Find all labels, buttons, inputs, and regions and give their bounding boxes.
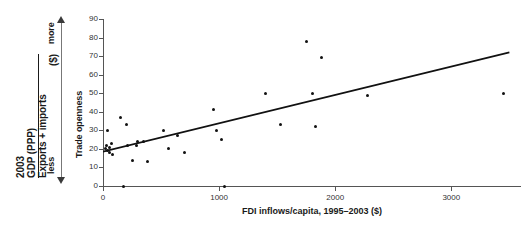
data-point <box>183 151 186 154</box>
plot-area <box>103 19 521 186</box>
x-tick-label: 3000 <box>436 194 466 202</box>
data-point <box>502 92 505 95</box>
data-point <box>126 144 129 147</box>
x-tick <box>335 187 336 191</box>
data-point <box>135 144 138 147</box>
direction-label-more: more <box>46 22 56 44</box>
trend-line <box>103 19 521 186</box>
chart-figure: Exports + imports GDP (PPP) 2003 ($) mor… <box>0 0 532 231</box>
data-point <box>131 159 134 162</box>
x-axis-ticks-and-labels: 0100020003000 <box>103 187 521 207</box>
fraction-denominator: GDP (PPP) <box>27 128 37 178</box>
data-point <box>162 129 165 132</box>
data-point <box>366 94 369 97</box>
y-tick-label: 40 <box>80 108 98 116</box>
x-tick <box>219 187 220 191</box>
y-axis-tick-labels: 0102030405060708090 <box>80 19 98 187</box>
x-tick-label: 0 <box>88 194 118 202</box>
x-tick-label: 1000 <box>204 194 234 202</box>
data-point <box>305 40 308 43</box>
arrow-down-icon <box>57 177 65 184</box>
data-point <box>122 185 125 188</box>
data-point <box>264 92 267 95</box>
direction-indicator: more less <box>52 14 72 186</box>
direction-axis-line <box>61 22 62 178</box>
data-point <box>108 146 111 149</box>
x-tick-label: 2000 <box>320 194 350 202</box>
y-tick-label: 60 <box>80 71 98 79</box>
y-tick-label: 90 <box>80 15 98 23</box>
fraction-year: 2003 <box>16 156 26 178</box>
y-tick-label: 50 <box>80 89 98 97</box>
data-point <box>119 116 122 119</box>
fraction-bar <box>38 54 39 178</box>
data-point <box>106 129 109 132</box>
y-tick-label: 30 <box>80 126 98 134</box>
x-tick <box>451 187 452 191</box>
y-tick-label: 10 <box>80 163 98 171</box>
arrow-up-icon <box>57 16 65 23</box>
y-tick-label: 0 <box>80 182 98 190</box>
data-point <box>311 92 314 95</box>
y-tick-label: 70 <box>80 52 98 60</box>
x-axis-title: FDI inflows/capita, 1995–2003 ($) <box>103 206 521 216</box>
y-tick-label: 20 <box>80 145 98 153</box>
direction-label-less: less <box>46 157 56 174</box>
x-tick <box>103 187 104 191</box>
y-tick-label: 80 <box>80 34 98 42</box>
